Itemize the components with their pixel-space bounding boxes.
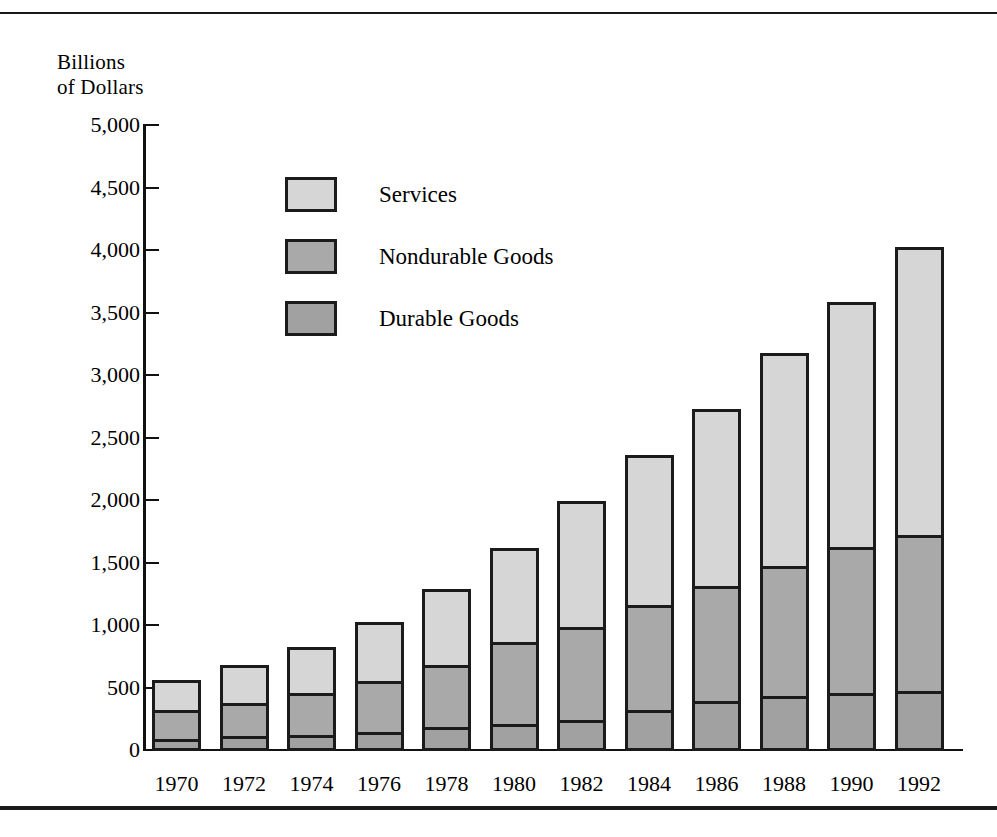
y-tick-label: 500	[44, 677, 140, 699]
y-tick-label: 4,000	[44, 239, 140, 261]
legend-item[interactable]: Durable Goods	[285, 293, 553, 343]
bar-group[interactable]	[760, 353, 809, 751]
legend-swatch-services	[285, 177, 337, 212]
bar-group[interactable]	[152, 680, 201, 752]
x-tick-label: 1988	[746, 772, 822, 796]
x-tick-label: 1984	[611, 772, 687, 796]
bar-segment-services[interactable]	[760, 353, 809, 569]
y-tick-label: 2,500	[44, 427, 140, 449]
bar-segment-nondurable-goods[interactable]	[557, 627, 606, 723]
y-tick-label: 5,000	[44, 114, 140, 136]
bar-segment-nondurable-goods[interactable]	[152, 710, 201, 742]
y-tick-label: 1,000	[44, 614, 140, 636]
bar-segment-nondurable-goods[interactable]	[422, 665, 471, 730]
bar-segment-durable-goods[interactable]	[490, 724, 539, 751]
bar-segment-durable-goods[interactable]	[557, 720, 606, 751]
bar-segment-services[interactable]	[692, 409, 741, 589]
legend-label: Services	[379, 183, 457, 206]
legend-label: Durable Goods	[379, 307, 519, 330]
bar-segment-nondurable-goods[interactable]	[220, 703, 269, 739]
legend-swatch-nondurable-goods	[285, 239, 337, 274]
bar-segment-durable-goods[interactable]	[827, 693, 876, 751]
bar-segment-services[interactable]	[220, 665, 269, 706]
stacked-bar-chart-figure: Billions of Dollars 5,0004,5004,0003,500…	[0, 14, 997, 806]
y-tick-label: 4,500	[44, 177, 140, 199]
x-tick-label: 1980	[476, 772, 552, 796]
bar-group[interactable]	[422, 589, 471, 751]
bar-group[interactable]	[625, 455, 674, 752]
y-axis-tick-labels: 5,0004,5004,0003,5003,0002,5002,0001,500…	[22, 14, 140, 806]
bar-segment-services[interactable]	[152, 680, 201, 714]
x-tick-label: 1986	[679, 772, 755, 796]
bar-segment-services[interactable]	[287, 647, 336, 696]
bar-group[interactable]	[895, 247, 944, 751]
bar-group[interactable]	[490, 548, 539, 751]
x-tick-label: 1976	[341, 772, 417, 796]
plot-area: 1970197219741976197819801982198419861988…	[143, 14, 965, 806]
chart-legend: ServicesNondurable GoodsDurable Goods	[285, 169, 553, 355]
y-tick-label: 1,500	[44, 552, 140, 574]
bar-segment-durable-goods[interactable]	[355, 732, 404, 751]
bar-segment-durable-goods[interactable]	[760, 696, 809, 751]
bar-segment-durable-goods[interactable]	[692, 701, 741, 751]
bar-segment-nondurable-goods[interactable]	[287, 693, 336, 738]
legend-swatch-durable-goods	[285, 301, 337, 336]
bar-segment-services[interactable]	[557, 501, 606, 630]
bar-segment-durable-goods[interactable]	[625, 710, 674, 751]
bar-segment-nondurable-goods[interactable]	[490, 642, 539, 727]
bar-segment-nondurable-goods[interactable]	[355, 681, 404, 735]
bar-segment-nondurable-goods[interactable]	[625, 605, 674, 713]
legend-item[interactable]: Nondurable Goods	[285, 231, 553, 281]
y-tick-label: 3,000	[44, 364, 140, 386]
bar-segment-nondurable-goods[interactable]	[760, 566, 809, 699]
bar-group[interactable]	[692, 409, 741, 751]
bar-segment-services[interactable]	[625, 455, 674, 608]
bar-group[interactable]	[827, 302, 876, 751]
bar-segment-services[interactable]	[895, 247, 944, 538]
bar-segment-durable-goods[interactable]	[152, 739, 201, 751]
bottom-divider-rule	[0, 806, 997, 810]
y-tick-label: 0	[44, 739, 140, 761]
x-tick-label: 1992	[881, 772, 957, 796]
bar-segment-services[interactable]	[490, 548, 539, 645]
bar-segment-durable-goods[interactable]	[422, 727, 471, 751]
bar-segment-services[interactable]	[422, 589, 471, 668]
bar-segment-durable-goods[interactable]	[895, 691, 944, 751]
y-tick-label: 2,000	[44, 489, 140, 511]
x-tick-label: 1978	[409, 772, 485, 796]
x-tick-label: 1970	[139, 772, 215, 796]
bar-segment-nondurable-goods[interactable]	[827, 547, 876, 696]
bar-group[interactable]	[287, 647, 336, 751]
bar-group[interactable]	[220, 665, 269, 751]
legend-item[interactable]: Services	[285, 169, 553, 219]
y-tick-label: 3,500	[44, 302, 140, 324]
x-tick-label: 1974	[274, 772, 350, 796]
bar-group[interactable]	[355, 622, 404, 751]
x-tick-label: 1990	[814, 772, 890, 796]
x-tick-label: 1972	[206, 772, 282, 796]
bar-segment-services[interactable]	[827, 302, 876, 550]
bar-segment-durable-goods[interactable]	[287, 735, 336, 751]
bar-segment-nondurable-goods[interactable]	[692, 586, 741, 704]
bar-segment-nondurable-goods[interactable]	[895, 535, 944, 694]
bar-segment-services[interactable]	[355, 622, 404, 684]
x-tick-label: 1982	[544, 772, 620, 796]
bar-segment-durable-goods[interactable]	[220, 736, 269, 751]
legend-label: Nondurable Goods	[379, 245, 553, 268]
bar-group[interactable]	[557, 501, 606, 751]
